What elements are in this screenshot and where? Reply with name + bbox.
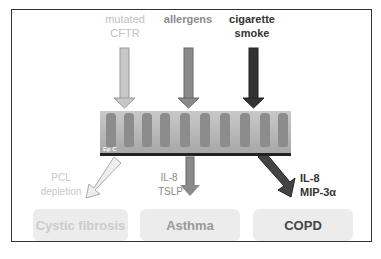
mediator-pcl-depletion: PCL depletion <box>36 171 86 199</box>
mediator-il8-tslp: IL-8 TSLP <box>158 171 180 199</box>
down-arrow-icon <box>178 48 199 108</box>
down-arrow-icon <box>243 48 264 108</box>
mediator-il8-mip3a: IL-8 MIP-3α <box>300 171 340 199</box>
down-arrow-mid-icon <box>180 157 200 196</box>
diag-arrow-right-icon <box>258 152 295 197</box>
epithelium-image: Ep C <box>100 111 291 156</box>
disease-copd: COPD <box>253 209 353 241</box>
diag-arrow-left-icon <box>86 157 121 198</box>
disease-cystic-fibrosis: Cystic fibrosis <box>33 209 128 241</box>
epithelium-label: Ep C <box>103 146 117 152</box>
down-arrow-icon <box>114 48 135 108</box>
disease-asthma: Asthma <box>140 209 240 241</box>
